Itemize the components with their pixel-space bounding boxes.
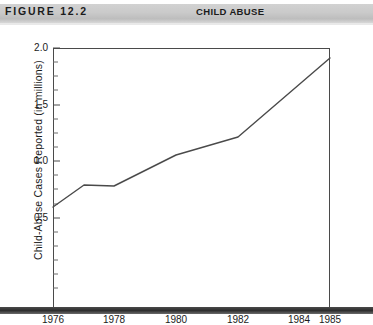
plot-svg (0, 26, 373, 294)
y-axis-title: Child-Abuse Cases Reported (in millions) (32, 45, 44, 275)
x-tick-label-1980: 1980 (159, 314, 193, 325)
figure-title: CHILD ABUSE (196, 6, 264, 17)
figure-number-label: FIGURE 12.2 (5, 5, 88, 17)
figure-page: FIGURE 12.2 CHILD ABUSE (0, 0, 373, 325)
chart-container: 2.0 1.5 1.0 0.5 1976 1978 1980 1982 1984… (0, 26, 373, 294)
x-tick-label-1984: 1984 (282, 314, 316, 325)
y-minor-ticks (53, 62, 58, 288)
x-tick-label-1985: 1985 (313, 314, 347, 325)
data-line (53, 58, 330, 207)
x-tick-label-1982: 1982 (221, 314, 255, 325)
x-tick-label-1976: 1976 (36, 314, 70, 325)
x-tick-label-1978: 1978 (97, 314, 131, 325)
bottom-rule (0, 307, 373, 314)
